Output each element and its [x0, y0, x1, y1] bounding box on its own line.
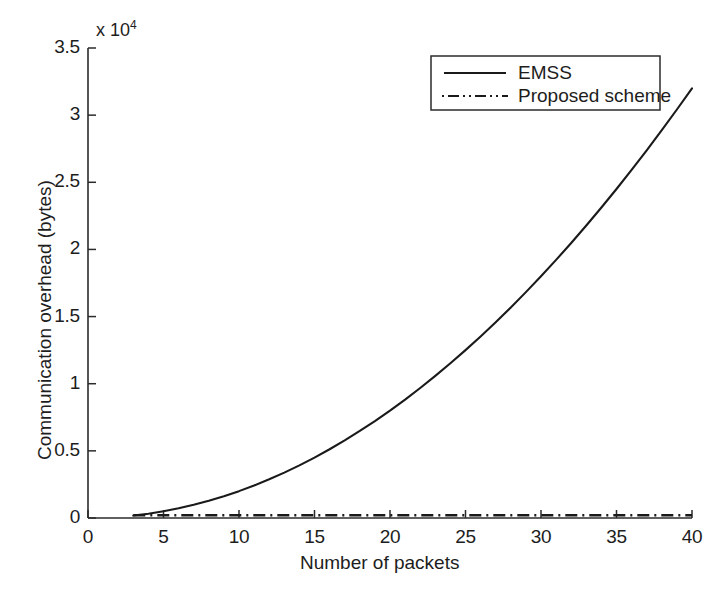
x-tick-label-0: 0 [58, 526, 118, 548]
y-tick-label-2: 1 [0, 372, 80, 394]
y-tick-label-5: 2.5 [0, 170, 80, 192]
y-tick-label-7: 3.5 [0, 36, 80, 58]
y-tick-label-0: 0 [0, 506, 80, 528]
series-line-emss [133, 88, 692, 515]
y-axis-ticks [88, 48, 96, 518]
x-tick-label-1: 5 [134, 526, 194, 548]
y-tick-label-3: 1.5 [0, 305, 80, 327]
y-tick-label-1: 0.5 [0, 439, 80, 461]
chart-figure: x 104 Communication overhead (bytes) Num… [0, 0, 726, 589]
x-tick-label-5: 25 [436, 526, 496, 548]
legend-label-emss: EMSS [518, 62, 572, 84]
y-tick-label-6: 3 [0, 103, 80, 125]
y-tick-label-4: 2 [0, 237, 80, 259]
legend-label-proposed-scheme: Proposed scheme [518, 85, 671, 107]
x-axis-ticks [88, 510, 692, 518]
x-tick-label-6: 30 [511, 526, 571, 548]
x-tick-label-8: 40 [662, 526, 722, 548]
x-tick-label-7: 35 [587, 526, 647, 548]
x-tick-label-2: 10 [209, 526, 269, 548]
x-tick-label-3: 15 [285, 526, 345, 548]
x-tick-label-4: 20 [360, 526, 420, 548]
